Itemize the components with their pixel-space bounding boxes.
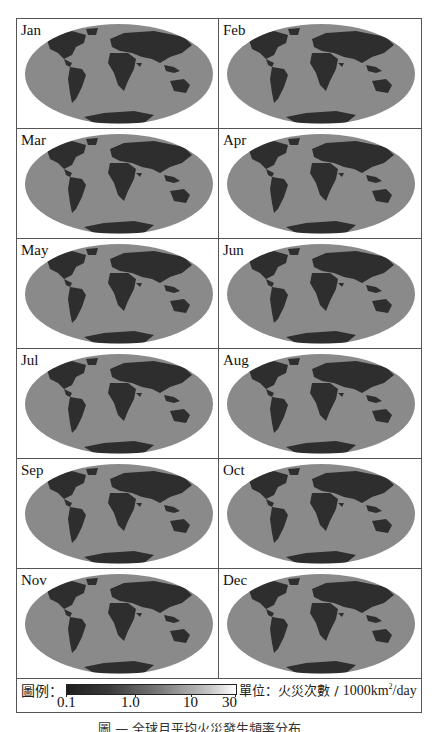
world-map bbox=[226, 353, 416, 455]
world-map bbox=[226, 23, 416, 125]
month-label: May bbox=[21, 241, 49, 259]
world-map bbox=[24, 23, 214, 125]
month-label: Apr bbox=[223, 131, 246, 149]
figure-frame: Jan Feb Mar bbox=[16, 18, 422, 713]
world-map bbox=[226, 133, 416, 235]
month-label: Sep bbox=[21, 461, 44, 479]
month-label: Nov bbox=[21, 571, 47, 589]
map-panel-mar: Mar bbox=[17, 129, 219, 239]
world-map bbox=[24, 133, 214, 235]
map-panel-may: May bbox=[17, 239, 219, 349]
map-panel-jun: Jun bbox=[219, 239, 421, 349]
tick-label: 1.0 bbox=[121, 694, 140, 711]
tick-label: 30 bbox=[222, 694, 237, 711]
world-map bbox=[226, 573, 416, 675]
map-panel-oct: Oct bbox=[219, 459, 421, 569]
map-panel-feb: Feb bbox=[219, 19, 421, 129]
legend: 圖例： 0.1 1.0 10 30 單位：火災次數 / 1000km2/day bbox=[17, 678, 421, 712]
tick-label: 10 bbox=[183, 694, 198, 711]
month-label: Jun bbox=[223, 241, 244, 259]
legend-unit: 單位：火災次數 / 1000km2/day bbox=[239, 680, 417, 699]
world-map bbox=[226, 463, 416, 565]
month-label: Oct bbox=[223, 461, 245, 479]
colorbar bbox=[66, 684, 237, 695]
map-panel-jan: Jan bbox=[17, 19, 219, 129]
month-label: Jan bbox=[21, 21, 41, 39]
month-label: Jul bbox=[21, 351, 39, 369]
month-label: Feb bbox=[223, 21, 246, 39]
month-label: Aug bbox=[223, 351, 249, 369]
world-map bbox=[24, 353, 214, 455]
world-map bbox=[24, 463, 214, 565]
tick-label: 0.1 bbox=[57, 694, 76, 711]
map-panel-apr: Apr bbox=[219, 129, 421, 239]
month-label: Mar bbox=[21, 131, 46, 149]
world-map bbox=[24, 573, 214, 675]
world-map bbox=[226, 243, 416, 345]
map-grid: Jan Feb Mar bbox=[17, 19, 421, 678]
map-panel-sep: Sep bbox=[17, 459, 219, 569]
figure-caption: 圖 — 全球月平均火災發生頻率分布 bbox=[98, 718, 348, 732]
map-panel-jul: Jul bbox=[17, 349, 219, 459]
map-panel-dec: Dec bbox=[219, 569, 421, 679]
map-panel-aug: Aug bbox=[219, 349, 421, 459]
world-map bbox=[24, 243, 214, 345]
map-panel-nov: Nov bbox=[17, 569, 219, 679]
month-label: Dec bbox=[223, 571, 247, 589]
